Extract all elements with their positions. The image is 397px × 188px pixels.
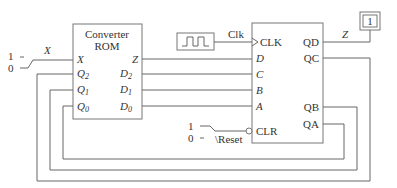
- counter-input-d: D: [255, 52, 264, 64]
- rom-title-2: ROM: [94, 40, 119, 52]
- rom-output-z: Z: [132, 53, 139, 65]
- reset-switch-1[interactable]: 1: [188, 120, 194, 132]
- x-switch-label: X: [43, 44, 52, 56]
- counter-clk-label: CLK: [260, 36, 282, 48]
- counter-input-a: A: [255, 100, 263, 112]
- output-z-label: Z: [342, 28, 349, 40]
- circuit-diagram: Converter ROM X Q2 Q1 Q0 Z D2 D1 D0 CLK …: [0, 0, 397, 188]
- counter-input-b: B: [256, 84, 263, 96]
- counter-output-qa: QA: [303, 118, 319, 130]
- counter-output-qc: QC: [304, 52, 319, 64]
- x-switch[interactable]: [20, 57, 73, 68]
- reset-label: \Reset: [215, 133, 243, 145]
- clock-source: [177, 33, 214, 50]
- counter-input-c: C: [256, 68, 264, 80]
- counter-clr-label: CLR: [256, 125, 278, 137]
- clock-label: Clk: [228, 28, 244, 40]
- rom-title-1: Converter: [85, 28, 129, 40]
- output-value: 1: [367, 15, 373, 27]
- counter-output-qb: QB: [304, 101, 319, 113]
- reset-switch-0[interactable]: 0: [188, 132, 194, 144]
- x-switch-1[interactable]: 1: [8, 50, 14, 62]
- rom-input-x: X: [76, 53, 85, 65]
- x-switch-0[interactable]: 0: [8, 62, 14, 74]
- clr-invert-bubble: [246, 128, 252, 134]
- counter-output-qd: QD: [303, 36, 319, 48]
